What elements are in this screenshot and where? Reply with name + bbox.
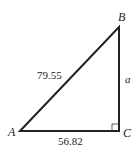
side-bc-label: a [125, 73, 131, 85]
right-angle-marker [112, 124, 119, 131]
vertex-label-c: C [123, 126, 132, 140]
vertex-label-a: A [7, 125, 16, 139]
triangle-shape [20, 27, 119, 131]
hypotenuse-length: 79.55 [37, 69, 62, 81]
vertex-label-b: B [118, 10, 126, 24]
base-length: 56.82 [58, 135, 83, 147]
triangle-diagram: A B C 79.55 56.82 a [0, 0, 139, 155]
